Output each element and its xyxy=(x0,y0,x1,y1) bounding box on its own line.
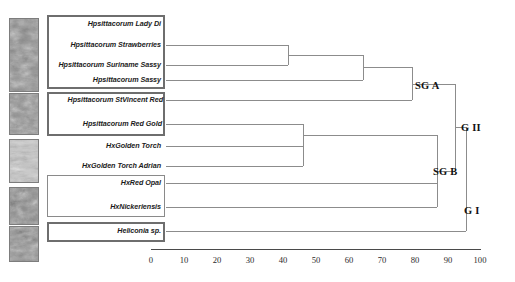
clade-tag-g-i: G I xyxy=(464,205,479,216)
clade-tag-sg-a: SG A xyxy=(415,80,439,91)
clade-tag-sg-b: SG B xyxy=(433,166,457,177)
clade-tag-g-ii: G II xyxy=(461,122,481,133)
axis-tick-40: 40 xyxy=(271,255,295,265)
axis-tick-20: 20 xyxy=(205,255,229,265)
axis-tick-30: 30 xyxy=(238,255,262,265)
axis-tick-50: 50 xyxy=(304,255,328,265)
axis-tick-60: 60 xyxy=(337,255,361,265)
axis-tick-10: 10 xyxy=(172,255,196,265)
axis-tick-100: 100 xyxy=(468,255,492,265)
axis-tick-90: 90 xyxy=(436,255,460,265)
axis-tick-70: 70 xyxy=(370,255,394,265)
axis-tick-0: 0 xyxy=(139,255,163,265)
axis-line xyxy=(151,249,481,250)
axis-tick-80: 80 xyxy=(403,255,427,265)
dendrogram-tree xyxy=(0,0,515,282)
dendrogram-figure: Hpsittacorum Lady Di Hpsittacorum Strawb… xyxy=(0,0,515,282)
